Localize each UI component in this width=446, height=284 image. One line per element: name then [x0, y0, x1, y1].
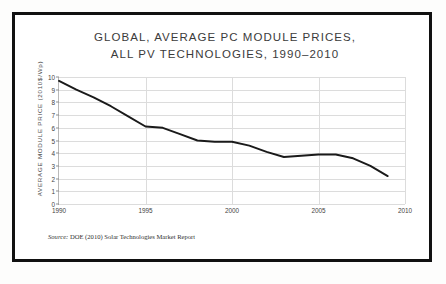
- y-axis-label: AVERAGE MODULE PRICE (2010$/Wp): [36, 59, 43, 199]
- y-tick-label: 5: [51, 137, 55, 144]
- y-tick-label: 10: [48, 74, 55, 81]
- price-line-series: [59, 77, 405, 204]
- y-tick-label: 6: [51, 124, 55, 131]
- plot-wrapper: AVERAGE MODULE PRICE (2010$/Wp) 01234567…: [15, 15, 435, 265]
- x-tick-label: 2010: [398, 207, 412, 214]
- plot-area: 012345678910 19901995200020052010: [58, 77, 405, 205]
- figure-canvas: GLOBAL, AVERAGE PC MODULE PRICES, ALL PV…: [0, 0, 446, 284]
- y-tick-label: 4: [51, 150, 55, 157]
- source-text: DOE (2010) Solar Technologies Market Rep…: [70, 233, 195, 240]
- gridline-vertical: [405, 77, 406, 204]
- gridline-horizontal: [59, 204, 405, 205]
- x-tick-label: 1995: [138, 207, 152, 214]
- source-note: Source: DOE (2010) Solar Technologies Ma…: [48, 233, 195, 240]
- x-tick-label: 2000: [225, 207, 239, 214]
- y-tick-label: 9: [51, 86, 55, 93]
- source-label: Source:: [48, 233, 68, 240]
- y-tick-label: 8: [51, 99, 55, 106]
- y-tick-label: 2: [51, 175, 55, 182]
- x-tick-label: 2005: [311, 207, 325, 214]
- y-tick-label: 3: [51, 162, 55, 169]
- y-tick-label: 7: [51, 112, 55, 119]
- figure-frame: GLOBAL, AVERAGE PC MODULE PRICES, ALL PV…: [12, 12, 432, 262]
- y-tick-label: 1: [51, 188, 55, 195]
- x-tick-label: 1990: [52, 207, 66, 214]
